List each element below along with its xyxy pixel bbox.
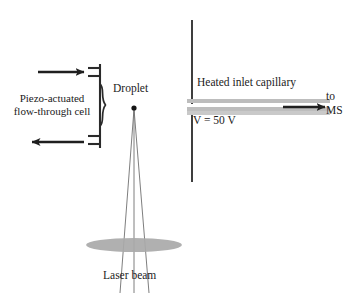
schematic-drawing <box>0 0 357 293</box>
figure-canvas: Piezo-actuated flow-through cell Droplet… <box>0 0 357 293</box>
laser-beam-rays <box>120 109 149 293</box>
piezo-cell-label: Piezo-actuated flow-through cell <box>6 92 98 118</box>
voltage-label: V = 50 V <box>193 114 236 128</box>
heated-inlet-capillary-label: Heated inlet capillary <box>197 76 296 90</box>
to-ms-label-line1: to <box>326 90 343 104</box>
droplet-dot <box>131 105 136 110</box>
droplet-label: Droplet <box>113 82 148 96</box>
focusing-lens <box>86 238 182 252</box>
to-ms-label: to MS <box>326 90 343 117</box>
piezo-cell-label-line2: flow-through cell <box>6 105 98 118</box>
piezo-cell-label-line1: Piezo-actuated <box>6 92 98 105</box>
to-ms-label-line2: MS <box>326 104 343 118</box>
laser-beam-label: Laser beam <box>103 269 156 283</box>
